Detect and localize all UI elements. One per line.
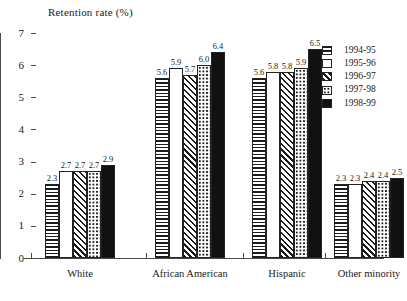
bar	[197, 65, 211, 258]
bar	[252, 78, 266, 258]
bar	[87, 171, 101, 258]
bar	[59, 171, 73, 258]
bar	[155, 78, 169, 258]
bar	[294, 68, 308, 258]
y-axis-tick	[31, 226, 36, 227]
legend-swatch-icon	[322, 46, 332, 55]
legend: 1994-951995-961996-971997-981998-99	[322, 44, 404, 110]
y-axis-tick-label: 4	[0, 124, 24, 135]
bar-value-label: 6.4	[208, 42, 228, 51]
y-axis-tick	[31, 194, 36, 195]
legend-swatch-icon	[322, 86, 332, 95]
y-axis-tick	[31, 97, 36, 98]
bar-value-label: 2.9	[98, 155, 118, 164]
y-axis-tick-label: 3	[0, 156, 24, 167]
bar	[211, 52, 225, 258]
bar	[390, 178, 404, 258]
bar	[45, 184, 59, 258]
legend-item: 1997-98	[322, 84, 404, 97]
y-axis-tick	[31, 65, 36, 66]
bar	[101, 165, 115, 258]
y-axis-tick-label: 1	[0, 220, 24, 231]
legend-swatch-icon	[322, 59, 332, 68]
legend-swatch-icon	[322, 99, 332, 108]
bar	[308, 49, 322, 258]
x-axis-tick	[325, 253, 326, 259]
category-label-hispanic: Hispanic	[268, 268, 305, 279]
bar-value-label: 2.5	[387, 168, 407, 177]
bar	[334, 184, 348, 258]
x-axis-tick	[243, 253, 244, 259]
legend-item: 1996-97	[322, 70, 404, 83]
y-axis-tick-label: 6	[0, 60, 24, 71]
bar	[169, 68, 183, 258]
bar	[73, 171, 87, 258]
bar	[266, 72, 280, 258]
bar	[348, 184, 362, 258]
legend-item: 1994-95	[322, 44, 404, 57]
legend-swatch-icon	[322, 72, 332, 81]
category-label-other-minority: Other minority	[338, 268, 401, 279]
chart-title: Retention rate (%)	[48, 6, 133, 18]
y-axis-tick	[31, 129, 36, 130]
y-axis-tick-label: 5	[0, 92, 24, 103]
category-label-white: White	[67, 268, 93, 279]
legend-label: 1995-96	[344, 59, 376, 69]
x-axis-tick	[146, 253, 147, 259]
legend-label: 1994-95	[344, 46, 376, 56]
legend-label: 1998-99	[344, 99, 376, 109]
bar	[280, 72, 294, 258]
legend-item: 1998-99	[322, 97, 404, 110]
x-axis-line	[24, 258, 383, 259]
bar	[362, 181, 376, 258]
y-axis-tick-label: 0	[0, 253, 24, 264]
legend-label: 1996-97	[344, 72, 376, 82]
y-axis-tick-label: 7	[0, 28, 24, 39]
retention-rate-bar-chart: Retention rate (%) 01234567 2.32.72.72.7…	[0, 0, 407, 301]
x-axis-tick	[31, 253, 32, 259]
category-label-african-american: African American	[152, 268, 228, 279]
y-axis-tick-label: 2	[0, 188, 24, 199]
bar	[376, 181, 390, 258]
y-axis-tick	[31, 33, 36, 34]
legend-label: 1997-98	[344, 85, 376, 95]
bar	[183, 75, 197, 258]
y-axis-tick	[31, 162, 36, 163]
legend-item: 1995-96	[322, 57, 404, 70]
